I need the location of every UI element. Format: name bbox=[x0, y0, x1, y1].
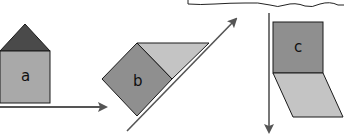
label-c: c bbox=[294, 38, 302, 56]
reflection-diagram: a b c bbox=[0, 0, 344, 138]
shape-c: c bbox=[273, 22, 343, 117]
label-b: b bbox=[133, 72, 143, 90]
torn-paper-edge bbox=[188, 0, 344, 7]
shape-b: b bbox=[102, 43, 209, 116]
label-a: a bbox=[21, 67, 30, 85]
roof-triangle bbox=[0, 24, 50, 51]
shape-a: a bbox=[0, 24, 50, 103]
parallelogram-c bbox=[273, 73, 343, 117]
